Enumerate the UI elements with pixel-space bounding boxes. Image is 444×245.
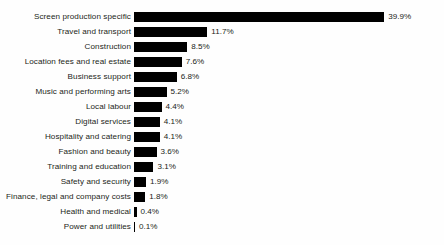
bar (134, 102, 162, 112)
bar-row: Safety and security1.9% (0, 174, 444, 189)
bar-and-value: 4.1% (134, 114, 182, 129)
bar (134, 42, 187, 52)
bar-and-value: 3.6% (134, 144, 179, 159)
bar-and-value: 0.4% (134, 204, 159, 219)
bar-value-label: 4.4% (166, 99, 184, 114)
bar (134, 207, 137, 217)
bar-row: Health and medical0.4% (0, 204, 444, 219)
bar-row: Fashion and beauty3.6% (0, 144, 444, 159)
bar-value-label: 3.6% (161, 144, 179, 159)
bar-category-label: Music and performing arts (0, 84, 131, 99)
bar-row: Hospitality and catering4.1% (0, 129, 444, 144)
bar-and-value: 39.9% (134, 9, 411, 24)
bar-category-label: Power and utilities (0, 219, 131, 234)
bar-category-label: Local labour (0, 99, 131, 114)
bar-category-label: Health and medical (0, 204, 131, 219)
chart-plot-area: Screen production specific39.9%Travel an… (0, 0, 444, 245)
bar-row: Music and performing arts5.2% (0, 84, 444, 99)
bar-and-value: 7.6% (134, 54, 204, 69)
horizontal-bar-chart: Screen production specific39.9%Travel an… (0, 0, 444, 245)
bar-row: Travel and transport11.7% (0, 24, 444, 39)
bar-value-label: 4.1% (164, 114, 182, 129)
bar-category-label: Business support (0, 69, 131, 84)
bar-value-label: 39.9% (388, 9, 411, 24)
bar (134, 177, 146, 187)
bar-and-value: 0.1% (134, 219, 157, 234)
bar-and-value: 4.1% (134, 129, 182, 144)
bar (134, 162, 153, 172)
bar-value-label: 5.2% (171, 84, 189, 99)
bar-category-label: Finance, legal and company costs (0, 189, 131, 204)
bar-value-label: 7.6% (186, 54, 204, 69)
bar-value-label: 8.5% (191, 39, 209, 54)
bar-category-label: Location fees and real estate (0, 54, 131, 69)
bar-row: Screen production specific39.9% (0, 9, 444, 24)
bar (134, 12, 384, 22)
bar-and-value: 4.4% (134, 99, 184, 114)
bar-category-label: Travel and transport (0, 24, 131, 39)
bar (134, 192, 145, 202)
bar (134, 147, 157, 157)
bar-value-label: 0.4% (141, 204, 159, 219)
bar-category-label: Safety and security (0, 174, 131, 189)
bar-category-label: Training and education (0, 159, 131, 174)
bar-value-label: 3.1% (157, 159, 175, 174)
bar (134, 72, 177, 82)
bar-value-label: 1.8% (149, 189, 167, 204)
bar (134, 57, 182, 67)
bar-and-value: 1.8% (134, 189, 168, 204)
bar-category-label: Screen production specific (0, 9, 131, 24)
bar-row: Business support6.8% (0, 69, 444, 84)
bar-value-label: 0.1% (139, 219, 157, 234)
bar-row: Construction8.5% (0, 39, 444, 54)
bar-row: Location fees and real estate7.6% (0, 54, 444, 69)
bar-row: Digital services4.1% (0, 114, 444, 129)
bar-row: Finance, legal and company costs1.8% (0, 189, 444, 204)
bar-value-label: 6.8% (181, 69, 199, 84)
bar-category-label: Hospitality and catering (0, 129, 131, 144)
bar-and-value: 11.7% (134, 24, 234, 39)
bar-category-label: Digital services (0, 114, 131, 129)
bar (134, 27, 207, 37)
bar-value-label: 11.7% (211, 24, 233, 39)
bar-and-value: 6.8% (134, 69, 199, 84)
bar-value-label: 4.1% (164, 129, 182, 144)
bar (134, 117, 160, 127)
bar-category-label: Construction (0, 39, 131, 54)
bar (134, 222, 135, 232)
bar-and-value: 8.5% (134, 39, 210, 54)
bar-and-value: 1.9% (134, 174, 168, 189)
bar-and-value: 3.1% (134, 159, 176, 174)
bar-and-value: 5.2% (134, 84, 189, 99)
bar-category-label: Fashion and beauty (0, 144, 131, 159)
bar-row: Training and education3.1% (0, 159, 444, 174)
bar-row: Power and utilities0.1% (0, 219, 444, 234)
bar-value-label: 1.9% (150, 174, 168, 189)
bar (134, 87, 167, 97)
bar-row: Local labour4.4% (0, 99, 444, 114)
bar (134, 132, 160, 142)
